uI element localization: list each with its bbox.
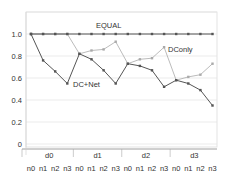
data-point-marker — [199, 74, 201, 76]
group-label-d3: d3 — [190, 151, 198, 160]
y-tick-label: 0.2 — [12, 118, 22, 127]
data-point-marker — [175, 79, 177, 81]
x-tick-label: n3 — [160, 164, 168, 173]
data-point-marker — [187, 33, 189, 35]
x-tick-label: n3 — [208, 164, 216, 173]
series-annotations: EQUAL DConly DC+Net — [73, 21, 193, 89]
group-label-d1: d1 — [93, 151, 101, 160]
x-tick-label: n3 — [112, 164, 120, 173]
y-tick-label: 0.6 — [12, 74, 22, 83]
annotation-dc-net: DC+Net — [73, 80, 101, 89]
data-point-marker — [102, 69, 104, 71]
data-point-marker — [115, 41, 117, 43]
x-tick-label: n0 — [75, 164, 83, 173]
x-tick-label: n0 — [124, 164, 132, 173]
data-point-marker — [42, 33, 44, 35]
plot-frame — [26, 12, 217, 147]
x-tick-label: n2 — [148, 164, 156, 173]
data-point-marker — [163, 86, 165, 88]
x-tick-label: n3 — [63, 164, 71, 173]
data-point-marker — [90, 49, 92, 51]
data-point-marker — [211, 104, 213, 106]
data-point-marker — [66, 33, 68, 35]
data-point-marker — [127, 63, 129, 65]
x-tick-label: n1 — [184, 164, 192, 173]
data-point-marker — [187, 76, 189, 78]
group-label-d0: d0 — [45, 151, 53, 160]
data-point-marker — [163, 33, 165, 35]
data-point-marker — [187, 82, 189, 84]
data-point-marker — [66, 82, 68, 84]
data-point-marker — [115, 33, 117, 35]
x-tick-label: n1 — [87, 164, 95, 173]
data-point-marker — [54, 70, 56, 72]
series-lines — [30, 33, 214, 107]
y-axis-ticks: 00.20.40.60.81.0 — [12, 30, 22, 149]
x-tick-label: n2 — [99, 164, 107, 173]
annotation-dconly: DConly — [168, 45, 193, 54]
plot-border — [26, 12, 217, 147]
y-tick-label: 0.4 — [12, 96, 22, 105]
data-point-marker — [127, 33, 129, 35]
data-point-marker — [54, 33, 56, 35]
data-point-marker — [163, 46, 165, 48]
line-chart: 00.20.40.60.81.0 d0d1d2d3n0n1n2n3n0n1n2n… — [0, 0, 225, 176]
data-point-marker — [175, 33, 177, 35]
group-label-d2: d2 — [142, 151, 150, 160]
data-point-marker — [139, 58, 141, 60]
x-tick-label: n0 — [27, 164, 35, 173]
y-tick-label: 1.0 — [12, 30, 22, 39]
data-point-marker — [102, 33, 104, 35]
data-point-marker — [115, 82, 117, 84]
annotation-equal: EQUAL — [96, 21, 121, 30]
data-point-marker — [78, 53, 80, 55]
data-point-marker — [139, 65, 141, 67]
data-point-marker — [199, 89, 201, 91]
x-tick-label: n2 — [196, 164, 204, 173]
data-point-marker — [102, 48, 104, 50]
x-tick-label: n1 — [39, 164, 47, 173]
y-tick-label: 0.8 — [12, 52, 22, 61]
x-tick-label: n1 — [136, 164, 144, 173]
data-point-marker — [90, 58, 92, 60]
data-point-marker — [211, 63, 213, 65]
x-tick-label: n2 — [51, 164, 59, 173]
x-tick-label: n0 — [172, 164, 180, 173]
data-point-marker — [151, 57, 153, 59]
data-point-marker — [78, 33, 80, 35]
data-point-marker — [151, 33, 153, 35]
data-point-marker — [199, 33, 201, 35]
data-point-marker — [211, 33, 213, 35]
data-point-marker — [151, 69, 153, 71]
data-point-marker — [42, 59, 44, 61]
data-point-marker — [90, 33, 92, 35]
data-point-marker — [30, 33, 32, 35]
data-point-marker — [139, 33, 141, 35]
y-tick-label: 0 — [18, 140, 22, 149]
x-axis: d0d1d2d3n0n1n2n3n0n1n2n3n0n1n2n3n0n1n2n3 — [22, 12, 217, 173]
